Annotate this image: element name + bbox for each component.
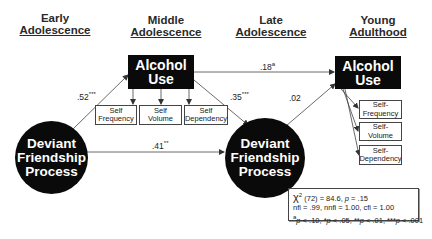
node-deviant-friendship-late: Deviant Friendship Process	[225, 118, 305, 198]
node-line1: Deviant	[241, 137, 290, 151]
chi-rest: (72) = 84.6,	[302, 194, 345, 203]
indicator-line2: Dependency	[185, 115, 227, 124]
node-line1: Alcohol	[342, 59, 393, 73]
indicator-line2: Frequency	[363, 110, 398, 119]
indicator-line2: Frequency	[98, 115, 133, 124]
indicator-line2: Volume	[148, 115, 173, 124]
node-line1: Deviant	[27, 137, 76, 151]
coef-mid-alc-to-late-dev: .35***	[230, 91, 249, 102]
coef-sig: ***	[242, 91, 249, 97]
node-line3: Process	[239, 165, 292, 179]
coef-value: .35	[230, 92, 242, 102]
node-alcohol-use-young: Alcohol Use	[335, 56, 401, 89]
node-deviant-friendship-early: Deviant Friendship Process	[15, 121, 88, 194]
node-line3: Process	[25, 165, 78, 179]
significance-legend: ap < .10, *p < .05, **p < .01, ***p < .0…	[293, 213, 414, 225]
legend-text: < .01, ***	[364, 215, 396, 224]
coef-early-dev-to-mid-alc: .52***	[77, 91, 96, 102]
coef-sig: **	[164, 140, 169, 146]
indicator-self-frequency-young: Self- Frequency	[359, 100, 402, 119]
coef-mid-alc-to-young-alc: .18a	[260, 61, 275, 72]
coef-value: .41	[152, 141, 164, 151]
node-line2: Use	[148, 72, 174, 86]
coef-value: .52	[77, 92, 89, 102]
legend-text: < .001	[400, 215, 423, 224]
coef-sig: ***	[89, 91, 96, 97]
coef-late-dev-to-young-alc: .02	[289, 92, 301, 103]
node-alcohol-use-middle: Alcohol Use	[128, 55, 194, 89]
legend-text: < .05, **	[331, 215, 360, 224]
arrow-late-dev-to-young-alc	[286, 84, 335, 126]
node-line2: Use	[355, 73, 381, 87]
fit-statistics-box: χ2 (72) = 84.6, p = .15 nfi = .99, nnfi …	[288, 188, 419, 221]
indicator-self-volume-middle: Self Volume	[139, 105, 182, 125]
fit-indices: nfi = .99, nnfi = 1.00, cfi = 1.00	[293, 203, 414, 213]
legend-text: < .10, *	[301, 215, 327, 224]
node-line1: Alcohol	[135, 58, 186, 72]
indicator-self-frequency-middle: Self Frequency	[95, 105, 137, 125]
indicator-self-dependency-middle: Self Dependency	[184, 105, 228, 125]
indicator-line2: Volume	[368, 132, 393, 141]
fit-chi-square: χ2 (72) = 84.6, p = .15	[293, 191, 414, 203]
coef-value: .02	[289, 93, 301, 103]
indicator-self-dependency-young: Self- Dependency	[359, 145, 402, 165]
coef-value: .18	[260, 62, 272, 72]
p-value: = .15	[349, 194, 368, 203]
coef-sig: a	[272, 61, 275, 67]
node-line2: Friendship	[230, 151, 299, 165]
coef-early-dev-to-late-dev: .41**	[152, 140, 169, 151]
node-line2: Friendship	[17, 151, 86, 165]
indicator-self-volume-young: Self- Volume	[359, 122, 402, 141]
indicator-line2: Dependency	[359, 155, 401, 164]
